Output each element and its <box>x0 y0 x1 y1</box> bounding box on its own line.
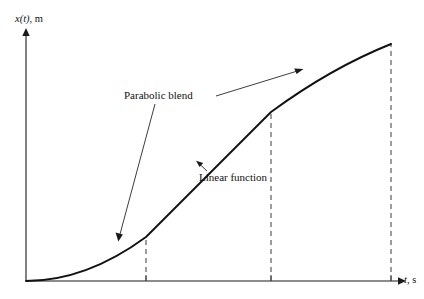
x-axis-label-unit: , s <box>407 274 416 285</box>
annotation-label-linear-function: Linear function <box>199 172 267 183</box>
y-axis-label-variable: x(t) <box>15 13 30 24</box>
caption-strip-cropped <box>0 290 424 299</box>
leader-arrowhead-parabolic-upper <box>294 68 303 74</box>
leader-arrowhead-parabolic-lower <box>116 233 123 242</box>
x-axis-label: t, s <box>404 275 416 286</box>
y-axis-arrowhead <box>22 28 29 36</box>
trajectory-curve-group <box>26 44 391 281</box>
leader-line-parabolic-lower <box>120 104 156 236</box>
trajectory-plot-svg <box>0 0 424 299</box>
trajectory-curve <box>26 44 391 281</box>
x-axis-ticks-group <box>146 275 391 281</box>
y-axis-label-unit: , m <box>30 13 43 24</box>
y-axis-label: x(t), m <box>15 14 43 25</box>
annotation-label-parabolic-blend: Parabolic blend <box>124 90 193 101</box>
figure-container: x(t), m t, s Parabolic blend Linear func… <box>0 0 424 299</box>
axes-group <box>22 28 406 285</box>
dashed-guides-group <box>146 43 391 281</box>
leader-line-parabolic-upper <box>216 71 299 97</box>
